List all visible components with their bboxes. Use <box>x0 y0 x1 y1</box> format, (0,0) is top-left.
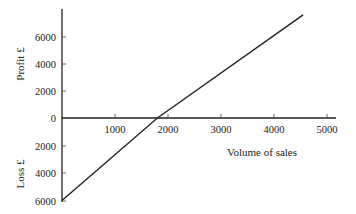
y-tick-label-zero: 0 <box>51 113 56 124</box>
y-tick-label-profit-2000: 2000 <box>35 86 56 97</box>
y-tick-label-profit-6000: 6000 <box>35 32 56 43</box>
profit-loss-line <box>62 15 303 201</box>
x-tick-label-2000: 2000 <box>158 124 179 135</box>
x-tick-label-4000: 4000 <box>264 124 285 135</box>
y-tick-label-loss-4000: 4000 <box>35 168 56 179</box>
y-axis-label-loss: Loss £ <box>14 159 26 189</box>
y-tick-label-loss-2000: 2000 <box>35 141 56 152</box>
y-tick-label-loss-6000: 6000 <box>35 196 56 207</box>
y-tick-label-profit-4000: 4000 <box>35 59 56 70</box>
x-tick-label-3000: 3000 <box>211 124 232 135</box>
break-even-chart: 6000 4000 2000 0 2000 4000 6000 1000 200… <box>0 0 356 214</box>
x-tick-label-1000: 1000 <box>105 124 126 135</box>
y-axis-label-profit: Profit £ <box>14 47 26 81</box>
x-axis-label: Volume of sales <box>227 146 297 158</box>
x-tick-label-5000: 5000 <box>317 124 338 135</box>
